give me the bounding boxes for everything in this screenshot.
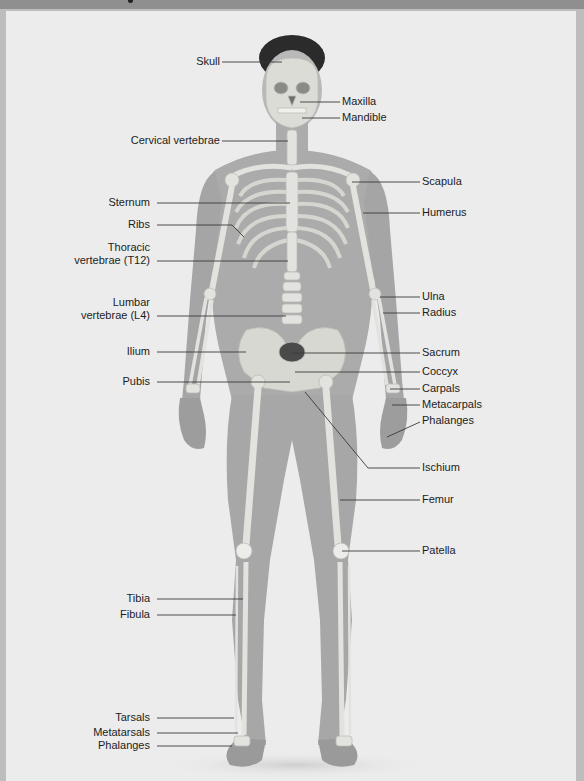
label-pubis: Pubis (122, 375, 150, 388)
label-tarsals: Tarsals (115, 711, 150, 724)
label-patella: Patella (422, 544, 456, 557)
floor-shadow (155, 751, 435, 779)
label-phalanges-foot: Phalanges (98, 739, 150, 752)
header-bar (0, 0, 584, 9)
label-skull: Skull (196, 55, 220, 68)
label-metacarpals: Metacarpals (422, 398, 482, 411)
label-scapula: Scapula (422, 175, 462, 188)
label-tibia: Tibia (127, 592, 150, 605)
label-humerus: Humerus (422, 206, 467, 219)
label-metatarsals: Metatarsals (93, 726, 150, 739)
label-thoracic-line1: Thoracic (108, 241, 150, 254)
header-mark (128, 0, 133, 3)
label-cervical-vertebrae: Cervical vertebrae (131, 134, 220, 147)
label-phalanges-hand: Phalanges (422, 414, 474, 427)
label-ribs: Ribs (128, 218, 150, 231)
skeleton-figure (6, 11, 576, 781)
label-sacrum: Sacrum (422, 346, 460, 359)
label-radius: Radius (422, 306, 456, 319)
label-lumbar-line2: vertebrae (L4) (81, 309, 150, 322)
label-lumbar-line1: Lumbar (113, 296, 150, 309)
label-sternum: Sternum (108, 196, 150, 209)
label-ulna: Ulna (422, 290, 445, 303)
label-maxilla: Maxilla (342, 95, 376, 108)
diagram-panel: Skull Cervical vertebrae Sternum Ribs Th… (6, 11, 576, 781)
label-thoracic-line2: vertebrae (T12) (74, 254, 150, 267)
label-ilium: Ilium (127, 345, 150, 358)
label-mandible: Mandible (342, 111, 387, 124)
label-femur: Femur (422, 493, 454, 506)
label-coccyx: Coccyx (422, 365, 458, 378)
label-carpals: Carpals (422, 382, 460, 395)
label-ischium: Ischium (422, 461, 460, 474)
label-fibula: Fibula (120, 608, 150, 621)
